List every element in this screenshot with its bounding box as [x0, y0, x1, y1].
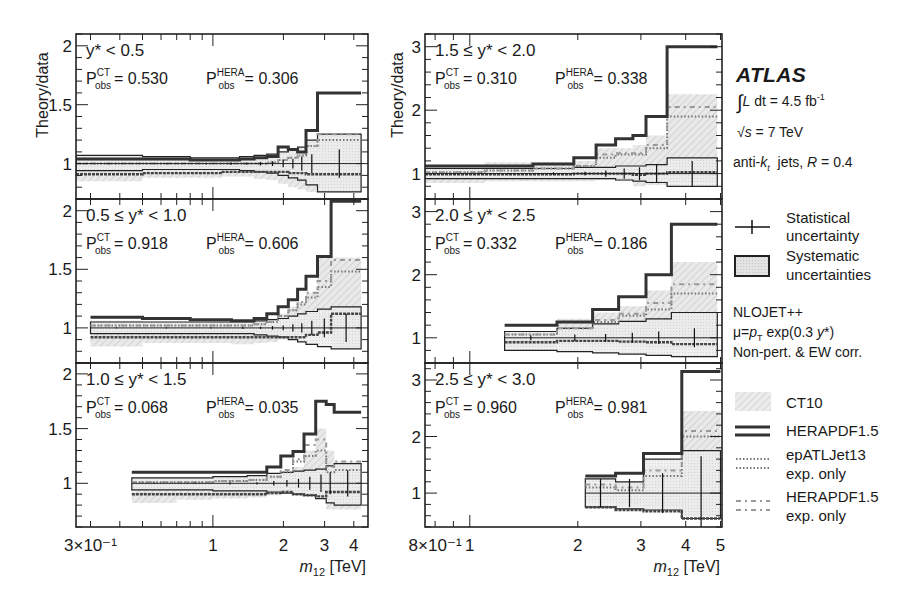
x-tick-labels: 3×10⁻¹12348×10⁻¹12345	[64, 536, 725, 555]
stat-uncertainty-label-1: Statistical	[786, 208, 850, 227]
y-tick-label: 2	[63, 202, 72, 221]
y-tick-label: 1	[412, 165, 421, 184]
rapidity-bin-label: 2.0 ≤ y* < 2.5	[435, 206, 536, 225]
p-obs-ct-label: PCTobs= 0.332	[435, 232, 517, 256]
x-tick-label: 3	[320, 536, 329, 555]
herapdf-exp-label-1: HERAPDF1.5	[786, 487, 879, 506]
p-obs-ct-label: PCTobs= 0.530	[86, 67, 168, 91]
syst-uncertainty-icon	[733, 253, 773, 279]
syst-uncertainty-label-1: Systematic	[786, 246, 859, 265]
panel-6: 1232.5 ≤ y* < 3.0PCTobs= 0.960PHERAobs= …	[412, 363, 722, 530]
x-axis-label-right: m12 [TeV]	[654, 558, 720, 578]
ct10-label: CT10	[786, 393, 823, 412]
y-tick-label: 1	[63, 474, 72, 493]
x-tick-label: 1	[465, 536, 474, 555]
luminosity-label: ∫L dt = 4.5 fb-1	[737, 88, 825, 112]
y-tick-label: 1	[412, 484, 421, 503]
y-axis-label-right: Theory/data	[389, 52, 406, 137]
y-tick-label: 1.5	[48, 96, 72, 115]
panel-2: 11.520.5 ≤ y* < 1.0PCTobs= 0.918PHERAobs…	[48, 199, 368, 363]
x-tick-label: 5	[716, 536, 725, 555]
jet-algorithm-label: anti-kt jets, R = 0.4	[733, 153, 853, 178]
panel-3: 11.521.0 ≤ y* < 1.5PCTobs= 0.068PHERAobs…	[48, 363, 368, 527]
y-tick-label: 1	[63, 319, 72, 338]
y-tick-label: 2	[412, 101, 421, 120]
herapdf-label: HERAPDF1.5	[786, 421, 879, 440]
p-obs-hera-label: PHERAobs= 0.981	[555, 396, 648, 420]
p-obs-ct-label: PCTobs= 0.310	[435, 67, 517, 91]
epatljet13-dotted-icon	[733, 452, 773, 476]
ct10-hatch-icon	[733, 390, 773, 414]
panel-1: 11.52y* < 0.5PCTobs= 0.530PHERAobs= 0.30…	[48, 34, 368, 199]
stat-uncertainty-icon	[733, 217, 773, 237]
rapidity-bin-label: y* < 0.5	[86, 41, 144, 60]
sqrt-s-label: √s = 7 TeV	[737, 123, 803, 142]
p-obs-ct-label: PCTobs= 0.068	[86, 396, 168, 420]
y-tick-label: 1	[412, 329, 421, 348]
x-tick-label: 2	[279, 536, 288, 555]
p-obs-hera-label: PHERAobs= 0.035	[206, 396, 299, 420]
rapidity-bin-label: 1.0 ≤ y* < 1.5	[86, 370, 187, 389]
x-tick-label: 3	[636, 536, 645, 555]
calc-label-3: Non-pert. & EW corr.	[733, 343, 862, 362]
herapdf-exp-dashdot-icon	[733, 494, 773, 518]
syst-uncertainty-label-2: uncertainties	[786, 265, 871, 284]
y-tick-label: 1.5	[48, 260, 72, 279]
rapidity-bin-label: 1.5 ≤ y* < 2.0	[435, 41, 536, 60]
p-obs-ct-label: PCTobs= 0.960	[435, 396, 517, 420]
y-tick-label: 2	[412, 266, 421, 285]
y-tick-label: 3	[412, 38, 421, 57]
rapidity-bin-label: 2.5 ≤ y* < 3.0	[435, 370, 536, 389]
p-obs-hera-label: PHERAobs= 0.606	[206, 232, 299, 256]
x-tick-label: 8×10⁻¹	[409, 536, 462, 555]
p-obs-hera-label: PHERAobs= 0.186	[555, 232, 648, 256]
panel-5: 1232.0 ≤ y* < 2.5PCTobs= 0.332PHERAobs= …	[412, 199, 722, 363]
x-tick-label: 4	[349, 536, 358, 555]
y-axis-label-left: Theory/data	[34, 52, 51, 137]
x-tick-label: 3×10⁻¹	[64, 536, 117, 555]
x-tick-label: 2	[573, 536, 582, 555]
y-tick-label: 1	[63, 155, 72, 174]
p-obs-hera-label: PHERAobs= 0.306	[206, 67, 299, 91]
rapidity-bin-label: 0.5 ≤ y* < 1.0	[86, 206, 187, 225]
atlas-label: ATLAS	[736, 63, 806, 87]
y-tick-label: 2	[412, 428, 421, 447]
y-tick-label: 2	[63, 37, 72, 56]
x-tick-label: 4	[681, 536, 690, 555]
herapdf-exp-label-2: exp. only	[786, 506, 846, 525]
p-obs-hera-label: PHERAobs= 0.338	[555, 67, 648, 91]
plot-panels: 11.52y* < 0.5PCTobs= 0.530PHERAobs= 0.30…	[48, 34, 722, 530]
x-tick-label: 1	[208, 536, 217, 555]
y-tick-label: 2	[63, 365, 72, 384]
y-tick-label: 1.5	[48, 420, 72, 439]
epatljet13-label-1: epATLJet13	[786, 445, 866, 464]
x-axis-label-left: m12 [TeV]	[300, 558, 366, 578]
calc-label-1: NLOJET++	[733, 303, 803, 322]
p-obs-ct-label: PCTobs= 0.918	[86, 232, 168, 256]
epatljet13-label-2: exp. only	[786, 464, 846, 483]
y-tick-label: 3	[412, 203, 421, 222]
herapdf-line-icon	[733, 420, 773, 444]
y-tick-label: 3	[412, 371, 421, 390]
stat-uncertainty-label-2: uncertainty	[786, 226, 859, 245]
panel-4: 1231.5 ≤ y* < 2.0PCTobs= 0.310PHERAobs= …	[412, 34, 722, 199]
